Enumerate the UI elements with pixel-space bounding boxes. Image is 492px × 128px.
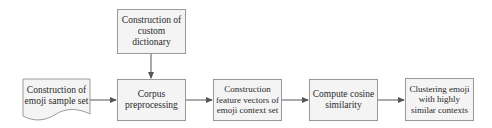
node-feature-vectors: Construction feature vectors of emoji co…: [213, 79, 282, 121]
node-corpus-preprocessing: Corpus preprocessing: [117, 79, 186, 121]
node-emoji-sample-set: Construction of emoji sample set: [23, 80, 90, 112]
node-custom-dictionary: Construction of custom dictionary: [117, 9, 186, 54]
node-cosine-similarity: Compute cosine similarity: [309, 79, 378, 121]
node-clustering: Clustering emoji with highly similar con…: [405, 78, 474, 121]
